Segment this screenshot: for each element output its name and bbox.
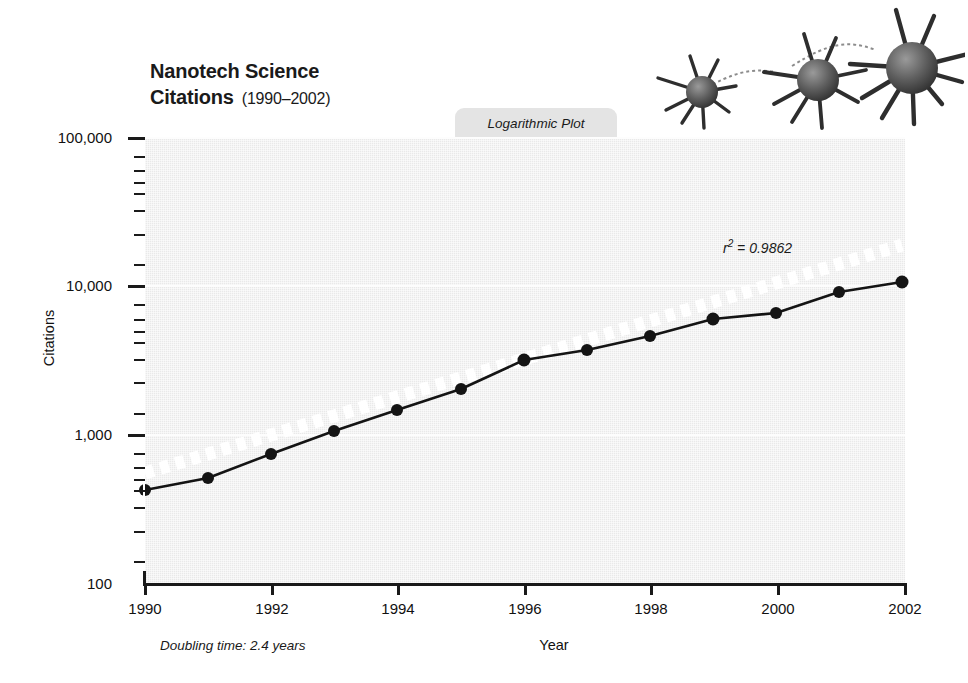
page-title: Nanotech Science Citations(1990–2002)	[150, 58, 550, 112]
series-canvas	[145, 137, 905, 583]
y-tick-label-100: 100	[87, 575, 112, 592]
plot-type-tab[interactable]: Logarithmic Plot	[455, 108, 617, 138]
x-axis-title: Year	[0, 637, 968, 653]
nanoparticle-cluster-icon	[640, 2, 965, 130]
title-line-2-text: Citations	[150, 86, 234, 108]
plot-type-tab-label: Logarithmic Plot	[488, 116, 585, 131]
x-tick-label-1990: 1990	[128, 600, 161, 617]
plot-area	[145, 137, 905, 583]
y-axis-title: Citations	[41, 283, 57, 393]
y-tick-label-10000: 10,000	[66, 277, 112, 294]
title-line-1: Nanotech Science	[150, 58, 550, 84]
x-tick-label-2002: 2002	[888, 600, 921, 617]
y-tick-marks	[115, 137, 145, 583]
title-year-range: (1990–2002)	[242, 90, 331, 107]
x-tick-label-1992: 1992	[255, 600, 288, 617]
y-tick-label-1000: 1,000	[74, 426, 112, 443]
y-tick-label-100000: 100,000	[58, 129, 112, 146]
x-tick-label-1998: 1998	[634, 600, 667, 617]
x-axis-title-text: Year	[539, 637, 568, 653]
r-squared-value: = 0.9862	[733, 240, 792, 256]
x-tick-label-1996: 1996	[508, 600, 541, 617]
r-squared-annotation: r2 = 0.9862	[723, 238, 792, 256]
x-tick-label-1994: 1994	[381, 600, 414, 617]
doubling-time-annotation: Doubling time: 2.4 years	[160, 638, 306, 653]
data-line	[145, 282, 902, 490]
chart-page: Nanotech Science Citations(1990–2002)	[0, 0, 968, 683]
x-tick-label-2000: 2000	[761, 600, 794, 617]
